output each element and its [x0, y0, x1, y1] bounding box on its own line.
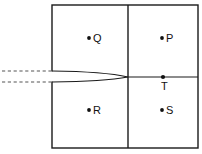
point-dot-r: [87, 108, 91, 112]
geometry-diagram-svg: Q P R S T: [0, 0, 202, 154]
wedge-mouth-mask: [50, 71, 54, 81]
point-dot-q: [87, 36, 91, 40]
point-label-r: R: [93, 104, 101, 116]
wedge-upper-edge: [52, 71, 128, 77]
point-label-q: Q: [93, 32, 102, 44]
point-label-t: T: [161, 80, 168, 92]
point-dot-s: [160, 108, 164, 112]
diagram-canvas: Q P R S T: [0, 0, 202, 154]
point-label-s: S: [166, 104, 173, 116]
point-dot-p: [160, 36, 164, 40]
point-label-p: P: [166, 32, 173, 44]
wedge-lower-edge: [52, 77, 128, 82]
point-dot-t: [161, 75, 165, 79]
